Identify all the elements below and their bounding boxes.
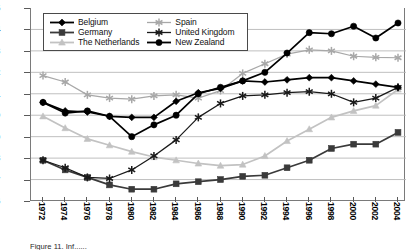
x-axis-tick-label: 2004: [393, 202, 402, 220]
legend-row: GermanyUnited Kingdom: [49, 27, 241, 37]
series-belgium: [40, 74, 402, 120]
legend-label: Belgium: [78, 17, 108, 27]
legend-item-united-kingdom[interactable]: United Kingdom: [146, 27, 234, 37]
x-axis-tick-label: 1974: [60, 202, 69, 220]
x-axis-tick-label: 1998: [326, 202, 335, 220]
legend-swatch-icon: [146, 18, 172, 27]
chart-figure: 0,150,140,130,120,110,100,090,080,070,06…: [0, 0, 413, 250]
x-axis-tick-label: 1990: [237, 202, 246, 220]
legend-item-spain[interactable]: Spain: [146, 17, 234, 27]
legend-item-germany[interactable]: Germany: [49, 27, 139, 37]
x-axis-tick-mark: [131, 197, 132, 202]
x-axis-tick-mark: [397, 197, 398, 202]
x-axis-tick-mark: [64, 197, 65, 202]
x-axis-tick-label: 1986: [193, 202, 202, 220]
x-axis-tick-mark: [264, 197, 265, 202]
x-axis-tick-mark: [375, 197, 376, 202]
x-axis-tick-mark: [175, 197, 176, 202]
legend-swatch-icon: [146, 38, 172, 47]
x-axis-tick-label: 1982: [149, 202, 158, 220]
x-axis-tick-label: 1994: [282, 202, 291, 220]
legend-table: BelgiumSpainGermanyUnited KingdomThe Net…: [49, 17, 241, 47]
x-axis-tick-mark: [308, 197, 309, 202]
legend-swatch-icon: [49, 18, 75, 27]
x-axis-tick-label: 1980: [127, 202, 136, 220]
x-axis-tick-mark: [286, 197, 287, 202]
chart-legend: BelgiumSpainGermanyUnited KingdomThe Net…: [43, 13, 248, 51]
x-axis-tick-mark: [197, 197, 198, 202]
x-axis-tick-label: 1988: [215, 202, 224, 220]
x-axis-tick-mark: [153, 197, 154, 202]
x-axis-tick-mark: [220, 197, 221, 202]
series-the-netherlands: [40, 86, 402, 168]
x-axis-tick-label: 1996: [304, 202, 313, 220]
y-axis: 0,150,140,130,120,110,100,090,080,070,06: [0, 0, 30, 209]
legend-swatch-icon: [49, 38, 75, 47]
x-axis-tick-mark: [242, 197, 243, 202]
series-spain: [40, 46, 402, 103]
legend-label: The Netherlands: [78, 37, 139, 47]
legend-item-the-netherlands[interactable]: The Netherlands: [49, 37, 139, 47]
x-axis: 1972197419761978198019821984198619881990…: [30, 202, 405, 244]
x-axis-tick-label: 1972: [38, 202, 47, 220]
legend-label: Spain: [175, 17, 196, 27]
x-axis-tick-mark: [42, 197, 43, 202]
x-axis-tick-mark: [330, 197, 331, 202]
legend-row: BelgiumSpain: [49, 17, 241, 27]
x-axis-tick-mark: [109, 197, 110, 202]
x-axis-tick-label: 2000: [348, 202, 357, 220]
x-axis-tick-mark: [353, 197, 354, 202]
legend-label: United Kingdom: [175, 27, 234, 37]
legend-item-belgium[interactable]: Belgium: [49, 17, 139, 27]
figure-caption: Figure 11. Inf......: [30, 243, 413, 250]
x-axis-tick-label: 1976: [82, 202, 91, 220]
x-axis-tick-mark: [86, 197, 87, 202]
x-axis-tick-label: 1984: [171, 202, 180, 220]
x-axis-tick-label: 2002: [371, 202, 380, 220]
legend-swatch-icon: [146, 28, 172, 37]
x-axis-tick-label: 1992: [260, 202, 269, 220]
legend-label: Germany: [78, 27, 112, 37]
legend-row: The NetherlandsNew Zealand: [49, 37, 241, 47]
legend-label: New Zealand: [175, 37, 224, 47]
legend-swatch-icon: [49, 28, 75, 37]
legend-item-new-zealand[interactable]: New Zealand: [146, 37, 234, 47]
series-germany: [40, 129, 401, 192]
x-axis-tick-label: 1978: [104, 202, 113, 220]
